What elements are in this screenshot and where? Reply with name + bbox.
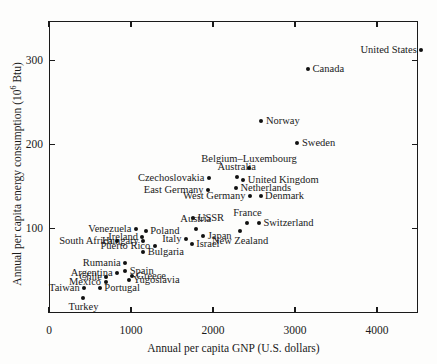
- point-label-taiwan: Taiwan: [49, 283, 80, 294]
- data-point-norway[interactable]: [259, 119, 263, 123]
- data-point-argentina[interactable]: [115, 271, 119, 275]
- y-tick-100: [49, 228, 55, 229]
- data-point-bulgaria[interactable]: [141, 250, 145, 254]
- data-point-rumania[interactable]: [123, 261, 127, 265]
- point-label-austria: Austria: [180, 214, 211, 225]
- point-label-bulgaria: Bulgaria: [148, 247, 184, 258]
- point-label-puerto-rico: Puerto Rico: [100, 240, 150, 251]
- x-tick-top-3000: [294, 21, 295, 27]
- x-tick-1000: [130, 307, 131, 313]
- point-label-sweden: Sweden: [302, 138, 335, 149]
- x-tick-label-3000: 3000: [284, 325, 307, 337]
- point-label-australia: Australia: [218, 162, 257, 173]
- data-point-israel[interactable]: [190, 242, 194, 246]
- y-tick-300: [49, 60, 55, 61]
- x-tick-top-2000: [212, 21, 213, 27]
- point-label-denmark: Denmark: [265, 191, 304, 202]
- data-point-portugal[interactable]: [98, 286, 102, 290]
- y-tick-200: [49, 144, 55, 145]
- y-axis-title: Annual per capita energy consumption (10…: [9, 24, 23, 324]
- x-tick-top-4000: [376, 21, 377, 27]
- x-axis-title: Annual per capita GNP (U.S. dollars): [49, 342, 418, 354]
- x-tick-top-1000: [130, 21, 131, 27]
- x-tick-label-1000: 1000: [120, 325, 143, 337]
- x-tick-4000: [376, 307, 377, 313]
- data-point-taiwan[interactable]: [82, 286, 86, 290]
- y-tick-right-100: [412, 228, 418, 229]
- y-tick-right-300: [412, 60, 418, 61]
- data-point-east-germany[interactable]: [206, 188, 210, 192]
- point-label-canada: Canada: [313, 64, 345, 75]
- data-point-turkey[interactable]: [81, 296, 85, 300]
- data-point-spain[interactable]: [123, 269, 127, 273]
- data-point-austria[interactable]: [194, 227, 198, 231]
- x-tick-label-2000: 2000: [202, 325, 225, 337]
- point-label-east-germany: East Germany: [144, 185, 204, 196]
- point-label-france: France: [233, 208, 262, 219]
- data-point-new-zealand[interactable]: [238, 229, 242, 233]
- point-label-israel: Israel: [196, 239, 219, 250]
- data-point-france[interactable]: [245, 221, 249, 225]
- point-label-portugal: Portugal: [104, 283, 140, 294]
- data-point-united-states[interactable]: [419, 48, 423, 52]
- data-point-australia[interactable]: [235, 175, 239, 179]
- data-point-poland[interactable]: [144, 229, 148, 233]
- y-tick-right-200: [412, 144, 418, 145]
- data-point-czechoslovakia[interactable]: [207, 176, 211, 180]
- x-tick-2000: [212, 307, 213, 313]
- point-label-switzerland: Switzerland: [263, 218, 313, 229]
- y-axis-title-suffix: Btu): [11, 62, 23, 85]
- point-label-united-states: United States: [360, 44, 416, 55]
- data-point-chile[interactable]: [104, 275, 108, 279]
- data-point-west-germany[interactable]: [248, 194, 252, 198]
- x-tick-label-0: 0: [46, 325, 52, 337]
- data-point-switzerland[interactable]: [257, 221, 261, 225]
- y-axis-title-prefix: Annual per capita energy consumption (10: [11, 89, 23, 285]
- point-label-turkey: Turkey: [68, 302, 98, 313]
- data-point-canada[interactable]: [306, 67, 310, 71]
- point-label-norway: Norway: [266, 116, 300, 127]
- x-tick-top-0: [48, 21, 49, 27]
- x-tick-3000: [294, 307, 295, 313]
- x-tick-0: [48, 307, 49, 313]
- point-label-poland: Poland: [150, 226, 179, 237]
- data-point-sweden[interactable]: [295, 141, 299, 145]
- x-tick-label-4000: 4000: [366, 325, 389, 337]
- data-point-denmark[interactable]: [259, 194, 263, 198]
- scatter-plot-figure: 01000200030004000100200300 United States…: [0, 0, 437, 364]
- point-label-czechoslovakia: Czechoslovakia: [138, 173, 204, 184]
- data-point-italy[interactable]: [184, 237, 188, 241]
- y-axis-title-exponent: 6: [9, 85, 18, 89]
